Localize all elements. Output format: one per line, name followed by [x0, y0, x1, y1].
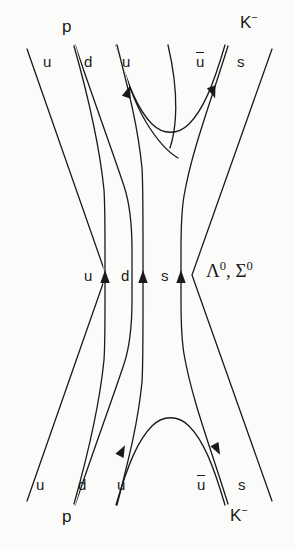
label-top-kaon: K−: [240, 12, 258, 31]
label-mid-quark-d: d: [121, 268, 129, 283]
label-top-quark-u2: u: [122, 54, 130, 69]
label-mid-quark-u: u: [84, 268, 92, 283]
label-top-proton: p: [62, 18, 71, 35]
quark-loop-bottom-u-turn: [116, 418, 225, 505]
label-top-quark-u1: u: [43, 54, 51, 69]
label-mid-quark-s: s: [161, 268, 169, 283]
label-bottom-quark-u2: u: [117, 477, 125, 492]
arrowhead-mid-u: [100, 270, 109, 283]
label-bottom-quark-s: s: [238, 477, 246, 492]
label-bottom-kaon-letter: K: [230, 506, 241, 525]
label-top-quark-ubar-text: u: [196, 54, 204, 69]
label-bottom-quark-ubar: u: [197, 477, 205, 492]
label-top-quark-s: s: [237, 54, 245, 69]
label-bottom-quark-ubar-text: u: [197, 477, 205, 492]
arrowhead-mid-s: [176, 270, 185, 283]
label-top-quark-ubar: u: [196, 54, 204, 69]
label-resonance-separator: ,: [226, 260, 236, 281]
label-bottom-kaon: K−: [230, 505, 248, 524]
label-bottom-kaon-charge: −: [241, 504, 247, 516]
label-bottom-quark-u1: u: [36, 477, 44, 492]
quark-line-diagram: p K− u d u u s u d s Λ0, Σ0 u d u u s p …: [0, 0, 295, 549]
arrowhead-mid-d: [138, 270, 147, 283]
label-top-quark-d: d: [84, 54, 92, 69]
label-bottom-proton: p: [62, 508, 71, 525]
label-resonance: Λ0, Σ0: [206, 260, 253, 280]
label-resonance-sigma: Σ: [236, 260, 247, 281]
label-bottom-quark-d: d: [78, 477, 86, 492]
label-top-kaon-letter: K: [240, 13, 251, 32]
quark-line-outer-left-u: [27, 49, 106, 501]
label-top-kaon-charge: −: [251, 11, 257, 23]
label-resonance-lambda: Λ: [206, 260, 220, 281]
arrowhead-bottom-left-u: [115, 443, 129, 458]
label-resonance-sigma-charge: 0: [247, 259, 253, 273]
